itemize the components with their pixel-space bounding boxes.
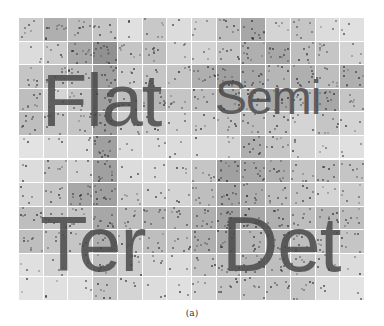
grid-tile [93, 160, 117, 183]
grid-tile [44, 18, 68, 41]
grid-tile [241, 42, 265, 65]
grid-tile [44, 160, 68, 183]
grid-tile [340, 136, 364, 159]
grid-tile [167, 112, 191, 135]
overlay-label-ter: Ter [40, 205, 145, 283]
grid-tile [241, 136, 265, 159]
grid-tile [143, 254, 167, 277]
grid-tile [340, 160, 364, 183]
grid-tile [167, 65, 191, 88]
grid-tile [19, 18, 43, 41]
grid-tile [291, 136, 315, 159]
figure-caption: (a) [0, 308, 384, 318]
grid-tile [19, 112, 43, 135]
grid-tile [19, 65, 43, 88]
grid-tile [192, 277, 216, 300]
overlay-label-det: Det [222, 205, 340, 283]
grid-tile [143, 160, 167, 183]
grid-tile [241, 18, 265, 41]
grid-tile [192, 254, 216, 277]
grid-tile [143, 230, 167, 253]
grid-tile [192, 207, 216, 230]
grid-tile [192, 112, 216, 135]
grid-tile [167, 160, 191, 183]
grid-tile [68, 160, 92, 183]
grid-tile [340, 183, 364, 206]
grid-tile [19, 136, 43, 159]
grid-tile [192, 65, 216, 88]
figure-panel: FlatSemiTerDet [19, 18, 364, 300]
grid-tile [167, 277, 191, 300]
grid-tile [266, 18, 290, 41]
grid-tile [266, 42, 290, 65]
grid-tile [340, 112, 364, 135]
section-divider [19, 158, 364, 160]
grid-tile [118, 160, 142, 183]
grid-tile [167, 207, 191, 230]
grid-tile [340, 207, 364, 230]
grid-tile [167, 254, 191, 277]
grid-tile [167, 230, 191, 253]
grid-tile [192, 230, 216, 253]
grid-tile [192, 183, 216, 206]
grid-tile [340, 230, 364, 253]
grid-tile [241, 160, 265, 183]
grid-tile [19, 160, 43, 183]
grid-tile [266, 160, 290, 183]
grid-tile [192, 42, 216, 65]
grid-tile [143, 18, 167, 41]
grid-tile [167, 18, 191, 41]
grid-tile [118, 18, 142, 41]
grid-tile [192, 89, 216, 112]
grid-tile [291, 18, 315, 41]
grid-tile [19, 42, 43, 65]
grid-tile [192, 136, 216, 159]
overlay-label-semi: Semi [215, 74, 320, 122]
grid-tile [217, 160, 241, 183]
grid-tile [217, 42, 241, 65]
grid-tile [167, 136, 191, 159]
grid-tile [316, 18, 340, 41]
grid-tile [340, 65, 364, 88]
grid-tile [93, 18, 117, 41]
grid-tile [217, 136, 241, 159]
grid-tile [340, 89, 364, 112]
grid-tile [192, 18, 216, 41]
grid-tile [217, 18, 241, 41]
grid-tile [291, 160, 315, 183]
grid-tile [340, 254, 364, 277]
grid-tile [68, 18, 92, 41]
grid-tile [291, 42, 315, 65]
grid-tile [143, 183, 167, 206]
grid-tile [340, 18, 364, 41]
grid-tile [19, 89, 43, 112]
grid-tile [316, 160, 340, 183]
grid-tile [167, 89, 191, 112]
grid-tile [167, 183, 191, 206]
grid-tile [192, 160, 216, 183]
grid-tile [167, 42, 191, 65]
grid-tile [266, 136, 290, 159]
grid-tile [316, 42, 340, 65]
grid-tile [340, 42, 364, 65]
grid-tile [143, 207, 167, 230]
overlay-label-flat: Flat [42, 64, 161, 138]
grid-tile [340, 277, 364, 300]
grid-tile [143, 277, 167, 300]
grid-tile [316, 136, 340, 159]
